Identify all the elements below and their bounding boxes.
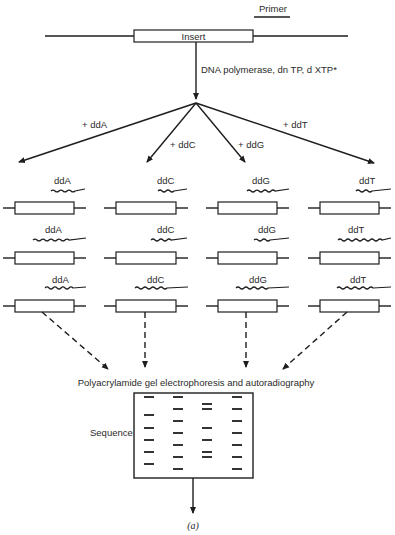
- branch-arrows: + ddA + ddC + ddG + ddT: [19, 103, 374, 163]
- wavy-fragment: [51, 189, 85, 192]
- fragment-label: ddC: [147, 274, 165, 285]
- fragment-label: ddG: [252, 175, 270, 186]
- template-box: [218, 252, 277, 264]
- fragment-label: ddC: [157, 224, 175, 235]
- wavy-fragment: [337, 287, 391, 289]
- wavy-fragment: [158, 189, 187, 192]
- template-box: [116, 300, 176, 312]
- wavy-fragment: [236, 287, 289, 289]
- wavy-fragment: [151, 238, 187, 241]
- wavy-fragment: [338, 238, 391, 241]
- sanger-sequencing-diagram: Primer Insert DNA polymerase, dn TP, d X…: [0, 0, 395, 535]
- fragment-label: ddT: [350, 274, 367, 285]
- branch-label-ddC: + ddC: [170, 139, 196, 150]
- template-box: [218, 300, 277, 312]
- fragment-label: ddG: [258, 224, 276, 235]
- wavy-fragment: [247, 189, 289, 192]
- gel-label: Polyacrylamide gel electrophoresis and a…: [78, 377, 315, 388]
- gel-box: [134, 393, 253, 478]
- wavy-fragment: [33, 238, 86, 241]
- sequence-label: Sequence: [90, 427, 133, 438]
- template-box: [218, 202, 277, 214]
- fragment-column-ddA: ddA ddA ddA: [3, 175, 108, 369]
- template-box: [320, 252, 379, 264]
- fragment-label: ddG: [249, 274, 267, 285]
- template-box: [320, 300, 379, 312]
- panel-label: (a): [187, 520, 199, 532]
- template-box: [15, 202, 74, 214]
- fragment-label: ddA: [54, 175, 72, 186]
- template-dna: Insert: [45, 30, 348, 42]
- branch-arrow-ddA: [19, 103, 196, 162]
- reaction-label: DNA polymerase, dn TP, d XTP*: [201, 64, 337, 75]
- fragment-label: ddC: [157, 175, 175, 186]
- fragment-column-ddC: ddC ddC ddC: [104, 175, 188, 367]
- insert-label: Insert: [182, 31, 206, 42]
- template-box: [15, 252, 74, 264]
- wavy-fragment: [254, 238, 289, 241]
- dashed-arrow-to-gel: [283, 312, 347, 369]
- template-box: [320, 202, 379, 214]
- template-box: [116, 202, 176, 214]
- wavy-fragment: [356, 189, 391, 192]
- fragment-label: ddA: [52, 274, 70, 285]
- primer: Primer: [254, 3, 290, 17]
- wavy-fragment: [45, 287, 86, 289]
- fragment-label: ddA: [45, 224, 63, 235]
- template-box: [15, 300, 74, 312]
- primer-label: Primer: [259, 3, 287, 14]
- wavy-fragment: [135, 287, 188, 289]
- fragment-label: ddT: [359, 175, 376, 186]
- branch-label-ddT: + ddT: [283, 119, 308, 130]
- fragment-column-ddT: ddT ddT ddT: [283, 175, 391, 369]
- branch-label-ddA: + ddA: [82, 119, 108, 130]
- fragment-column-ddG: ddG ddG ddG: [206, 175, 289, 367]
- template-box: [116, 252, 176, 264]
- branch-arrow-ddT: [196, 103, 374, 163]
- branch-label-ddG: + ddG: [238, 139, 264, 150]
- dashed-arrow-to-gel: [42, 312, 108, 369]
- fragment-label: ddT: [348, 224, 365, 235]
